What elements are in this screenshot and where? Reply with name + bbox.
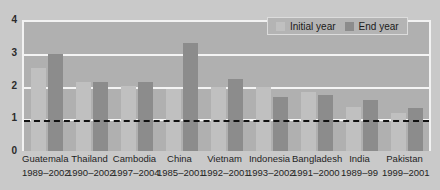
y-tick-label: 1 xyxy=(11,113,17,123)
plot-inner xyxy=(24,22,429,151)
legend-label: Initial year xyxy=(290,21,336,32)
bar-cambodia-end xyxy=(138,82,153,151)
y-tick-label: 0 xyxy=(11,146,17,156)
y-tick-label: 2 xyxy=(11,81,17,91)
bar-thailand-initial xyxy=(76,82,91,151)
x-axis-period-label: 1992–2001 xyxy=(202,166,247,179)
x-axis-period-label: 1990–2002 xyxy=(67,166,112,179)
x-axis-period-label: 1989–99 xyxy=(337,166,382,179)
x-axis-country-label: Pakistan xyxy=(382,152,427,165)
bar-indonesia-end xyxy=(273,97,288,151)
x-axis-country-label: Bangladesh xyxy=(292,152,337,165)
x-axis-country-label: Indonesia xyxy=(247,152,292,165)
bar-indonesia-initial xyxy=(256,87,271,151)
legend-swatch-icon xyxy=(345,22,354,31)
reference-line xyxy=(24,120,429,122)
bar-vietnam-initial xyxy=(211,87,226,151)
legend-label: End year xyxy=(359,21,399,32)
x-axis-period-label: 1985–2001 xyxy=(157,166,202,179)
x-axis-group-indonesia: Indonesia1993–2002 xyxy=(247,152,292,179)
bar-vietnam-end xyxy=(228,79,243,151)
bar-guatemala-end xyxy=(48,54,63,151)
y-axis: 01234 xyxy=(0,0,22,190)
x-axis-group-bangladesh: Bangladesh1991–2000 xyxy=(292,152,337,179)
bar-india-end xyxy=(363,100,378,151)
legend-entry: End year xyxy=(345,21,399,32)
gridline xyxy=(24,54,429,56)
x-axis-country-label: Cambodia xyxy=(112,152,157,165)
x-axis-period-label: 1999–2001 xyxy=(382,166,427,179)
x-axis-country-label: Vietnam xyxy=(202,152,247,165)
x-axis-country-label: India xyxy=(337,152,382,165)
bar-china-end xyxy=(183,43,198,151)
x-axis-period-label: 1997–2004 xyxy=(112,166,157,179)
legend-swatch-icon xyxy=(276,22,285,31)
chart-legend: Initial yearEnd year xyxy=(267,17,408,35)
bar-thailand-end xyxy=(93,82,108,151)
bar-guatemala-initial xyxy=(31,68,46,152)
x-axis-group-vietnam: Vietnam1992–2001 xyxy=(202,152,247,179)
y-tick-label: 4 xyxy=(11,15,17,25)
chart-page: 01234 Guatemala1989–2002Thailand1990–200… xyxy=(0,0,440,190)
bar-india-initial xyxy=(346,107,361,151)
x-axis-group-china: China1985–2001 xyxy=(157,152,202,179)
x-axis-group-cambodia: Cambodia1997–2004 xyxy=(112,152,157,179)
x-axis-period-label: 1991–2000 xyxy=(292,166,337,179)
bar-cambodia-initial xyxy=(121,86,136,152)
x-axis-group-india: India1989–99 xyxy=(337,152,382,179)
y-tick-label: 3 xyxy=(11,48,17,58)
bar-pakistan-initial xyxy=(391,113,406,151)
x-axis-period-label: 1993–2002 xyxy=(247,166,292,179)
x-axis-group-thailand: Thailand1990–2002 xyxy=(67,152,112,179)
x-axis: Guatemala1989–2002Thailand1990–2002Cambo… xyxy=(22,152,431,190)
bar-pakistan-end xyxy=(408,108,423,151)
x-axis-group-pakistan: Pakistan1999–2001 xyxy=(382,152,427,179)
x-axis-country-label: China xyxy=(157,152,202,165)
legend-entry: Initial year xyxy=(276,21,336,32)
x-axis-country-label: Thailand xyxy=(67,152,112,165)
x-axis-group-guatemala: Guatemala1989–2002 xyxy=(22,152,67,179)
bar-bangladesh-end xyxy=(318,95,333,151)
plot-area xyxy=(22,20,431,151)
x-axis-country-label: Guatemala xyxy=(22,152,67,165)
x-axis-period-label: 1989–2002 xyxy=(22,166,67,179)
